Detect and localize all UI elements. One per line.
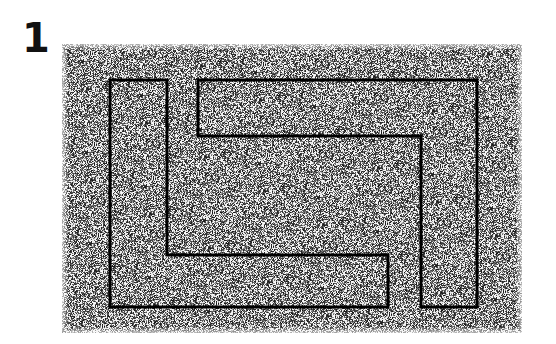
noise-texture-canvas xyxy=(62,44,522,333)
figure-number-label: 1 xyxy=(22,16,49,60)
figure-container: 1 xyxy=(0,0,556,344)
noise-texture-panel xyxy=(62,44,522,333)
